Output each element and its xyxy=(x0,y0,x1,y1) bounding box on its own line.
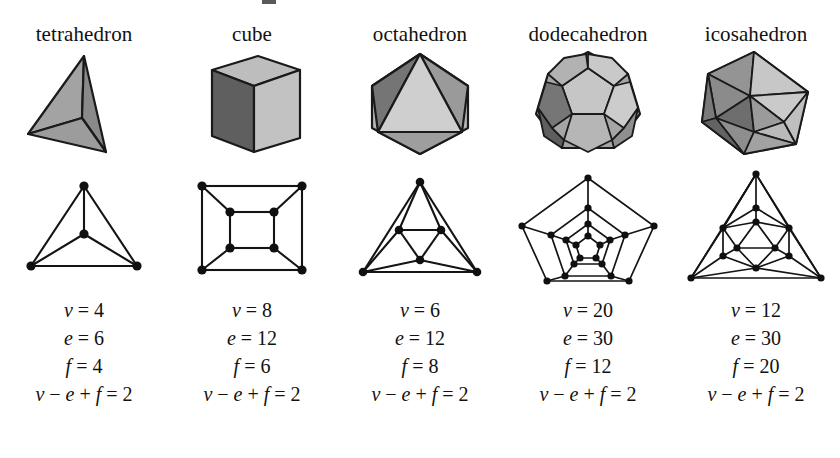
stat-euler: v − e + f = 2 xyxy=(0,380,168,408)
stat-faces: f = 4 xyxy=(0,352,168,380)
solid-label-octahedron: octahedron xyxy=(336,22,504,46)
column-cube: cube xyxy=(168,0,336,458)
solids-columns: tetrahedron xyxy=(0,0,840,458)
solid-label-cube: cube xyxy=(168,22,336,46)
column-dodecahedron: dodecahedron xyxy=(504,0,672,458)
dodecahedron-solid-icon xyxy=(504,48,672,160)
solid-label-icosahedron: icosahedron xyxy=(672,22,840,46)
icosahedron-solid-icon xyxy=(672,48,840,160)
octahedron-solid-icon xyxy=(336,48,504,160)
stats-dodecahedron: v = 20 e = 30 f = 12 v − e + f = 2 xyxy=(504,296,672,408)
icosahedron-graph-icon xyxy=(672,168,840,286)
cube-graph-icon xyxy=(168,168,336,286)
stat-faces: f = 8 xyxy=(336,352,504,380)
stat-vertices: v = 6 xyxy=(336,296,504,324)
dodecahedron-graph-icon xyxy=(504,168,672,286)
column-octahedron: octahedron xyxy=(336,0,504,458)
octahedron-graph-icon xyxy=(336,168,504,286)
solid-label-dodecahedron: dodecahedron xyxy=(504,22,672,46)
stat-vertices: v = 4 xyxy=(0,296,168,324)
stat-faces: f = 12 xyxy=(504,352,672,380)
column-tetrahedron: tetrahedron xyxy=(0,0,168,458)
stat-edges: e = 30 xyxy=(504,324,672,352)
stat-euler: v − e + f = 2 xyxy=(504,380,672,408)
stat-faces: f = 20 xyxy=(672,352,840,380)
platonic-solids-figure: tetrahedron xyxy=(0,0,840,458)
stat-euler: v − e + f = 2 xyxy=(336,380,504,408)
stats-tetrahedron: v = 4 e = 6 f = 4 v − e + f = 2 xyxy=(0,296,168,408)
stat-vertices: v = 8 xyxy=(168,296,336,324)
cube-solid-icon xyxy=(168,48,336,160)
stat-edges: e = 12 xyxy=(336,324,504,352)
stat-vertices: v = 20 xyxy=(504,296,672,324)
stat-edges: e = 30 xyxy=(672,324,840,352)
tetrahedron-solid-icon xyxy=(0,48,168,160)
stats-cube: v = 8 e = 12 f = 6 v − e + f = 2 xyxy=(168,296,336,408)
stat-faces: f = 6 xyxy=(168,352,336,380)
stats-icosahedron: v = 12 e = 30 f = 20 v − e + f = 2 xyxy=(672,296,840,408)
tetrahedron-graph-icon xyxy=(0,168,168,286)
stats-octahedron: v = 6 e = 12 f = 8 v − e + f = 2 xyxy=(336,296,504,408)
stat-edges: e = 12 xyxy=(168,324,336,352)
stat-edges: e = 6 xyxy=(0,324,168,352)
stat-vertices: v = 12 xyxy=(672,296,840,324)
column-icosahedron: icosahedron xyxy=(672,0,840,458)
stat-euler: v − e + f = 2 xyxy=(168,380,336,408)
stat-euler: v − e + f = 2 xyxy=(672,380,840,408)
solid-label-tetrahedron: tetrahedron xyxy=(0,22,168,46)
